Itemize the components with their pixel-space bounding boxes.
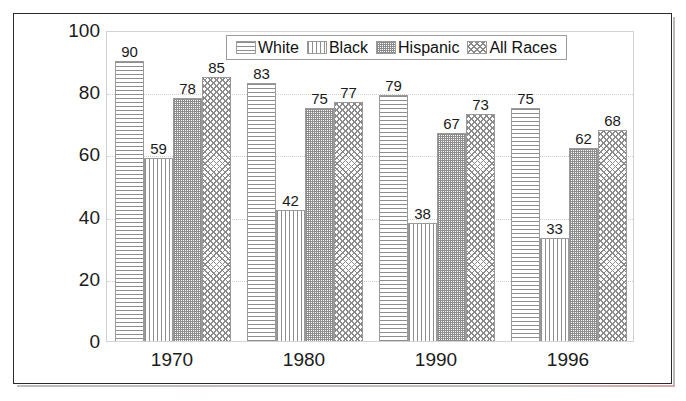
x-tick-label-1970: 1970 [106,350,238,369]
x-tick-label-1996: 1996 [502,350,634,369]
bar-hispanic-1990[interactable]: 67 [437,133,466,341]
bar-white-1970[interactable]: 90 [115,61,144,341]
legend-swatch-icon [307,41,327,54]
x-tick-label-1990: 1990 [370,350,502,369]
legend-label: All Races [489,40,557,56]
y-axis: 020406080100 [44,31,100,342]
bar-value-label: 75 [311,91,328,106]
bar-black-1970[interactable]: 59 [144,158,173,341]
frame-shadow-bottom [17,385,675,387]
bar-value-label: 75 [517,91,534,106]
bar-all-races-1996[interactable]: 68 [598,130,627,341]
x-tick-label-1980: 1980 [238,350,370,369]
legend-swatch-icon [376,41,396,54]
bar-all-races-1970[interactable]: 85 [202,77,231,341]
bar-value-label: 59 [150,141,167,156]
bar-value-label: 85 [208,60,225,75]
bar-black-1990[interactable]: 38 [408,223,437,341]
x-axis: 1970198019901996 [106,350,634,380]
legend-item-hispanic[interactable]: Hispanic [372,40,463,56]
legend-item-white[interactable]: White [232,40,303,56]
bar-value-label: 42 [282,193,299,208]
bar-hispanic-1970[interactable]: 78 [173,98,202,341]
bar-value-label: 33 [546,221,563,236]
bar-all-races-1980[interactable]: 77 [334,102,363,341]
legend-label: Black [329,40,368,56]
legend-item-black[interactable]: Black [303,40,372,56]
bar-white-1990[interactable]: 79 [379,95,408,341]
y-tick-label: 80 [54,83,100,102]
bar-black-1980[interactable]: 42 [276,210,305,341]
legend-label: White [258,40,299,56]
bar-group-1996: 75336268 [511,32,627,341]
legend-item-all-races[interactable]: All Races [463,40,561,56]
bar-value-label: 90 [121,44,138,59]
legend-label: Hispanic [398,40,459,56]
bar-value-label: 73 [472,97,489,112]
bar-hispanic-1980[interactable]: 75 [305,108,334,341]
bar-all-races-1990[interactable]: 73 [466,114,495,341]
plot-area: 90597885834275777938677375336268 [106,31,634,342]
legend-swatch-icon [236,41,256,54]
y-tick-label: 20 [54,270,100,289]
y-tick-label: 40 [54,208,100,227]
figure-frame: 020406080100 905978858342757779386773753… [13,13,672,384]
bar-value-label: 67 [443,116,460,131]
bar-value-label: 68 [604,113,621,128]
y-tick-label: 0 [54,332,100,351]
chart-legend: WhiteBlackHispanicAll Races [226,35,567,60]
frame-shadow-right [673,17,675,386]
bar-value-label: 83 [253,66,270,81]
bar-white-1996[interactable]: 75 [511,108,540,341]
y-tick-label: 100 [54,21,100,40]
bar-value-label: 79 [385,78,402,93]
y-tick-label: 60 [54,145,100,164]
bar-value-label: 78 [179,81,196,96]
bar-chart: 020406080100 905978858342757779386773753… [14,14,673,385]
bar-hispanic-1996[interactable]: 62 [569,148,598,341]
bar-group-1980: 83427577 [247,32,363,341]
bar-value-label: 38 [414,206,431,221]
legend-swatch-icon [467,41,487,54]
bar-black-1996[interactable]: 33 [540,238,569,341]
bar-value-label: 62 [575,131,592,146]
bar-value-label: 77 [340,85,357,100]
bar-group-1970: 90597885 [115,32,231,341]
bar-white-1980[interactable]: 83 [247,83,276,341]
bar-group-1990: 79386773 [379,32,495,341]
